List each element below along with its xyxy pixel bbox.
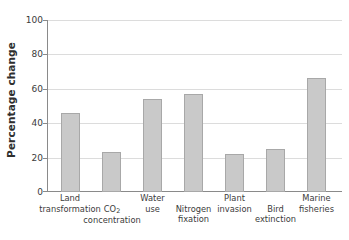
x-axis-tick-labels: Land transformation CO2 concentration Wa… [47, 193, 342, 240]
x-label-marine-fisheries: Marine fisheries [290, 193, 343, 214]
y-tick-label-80: 80 [19, 50, 43, 59]
gridline-80 [48, 54, 342, 55]
y-tick-label-60: 60 [19, 85, 43, 94]
x-label-line2: fisheries [290, 204, 343, 215]
gridline-100 [48, 20, 342, 21]
x-label-line2: fixation [166, 214, 221, 225]
y-axis-tick-labels: 100 80 60 40 20 0 [17, 20, 43, 192]
y-tick-label-20: 20 [19, 154, 43, 163]
y-tick-label-40: 40 [19, 119, 43, 128]
co2-text: CO [104, 204, 116, 214]
x-label-line1: Marine [290, 193, 343, 204]
bar-chart-figure: Percentage change 100 80 60 40 20 0 [0, 0, 349, 240]
tick-0 [43, 191, 47, 192]
bar-bird-extinction [266, 149, 285, 192]
y-axis-line [47, 20, 48, 192]
tick-40 [43, 123, 47, 124]
co2-subscript: 2 [116, 207, 120, 215]
bar-nitrogen-fixation [184, 94, 203, 192]
y-tick-label-100: 100 [19, 16, 43, 25]
tick-20 [43, 158, 47, 159]
x-label-line1: Water [128, 193, 177, 204]
x-label-line2: extinction [249, 214, 302, 225]
plot-area [47, 20, 342, 192]
y-axis-title-label: Percentage change [5, 42, 17, 158]
tick-100 [43, 20, 47, 21]
bar-co2-concentration [102, 152, 121, 192]
tick-80 [43, 54, 47, 55]
bar-land-transformation [61, 113, 80, 192]
x-label-line2: concentration [82, 215, 142, 226]
x-label-line1: Land [35, 193, 105, 204]
bar-marine-fisheries [307, 78, 326, 191]
bar-water-use [143, 99, 162, 192]
tick-60 [43, 89, 47, 90]
bar-plant-invasion [225, 154, 244, 192]
gridline-60 [48, 89, 342, 90]
x-label-line1: Plant [208, 193, 261, 204]
